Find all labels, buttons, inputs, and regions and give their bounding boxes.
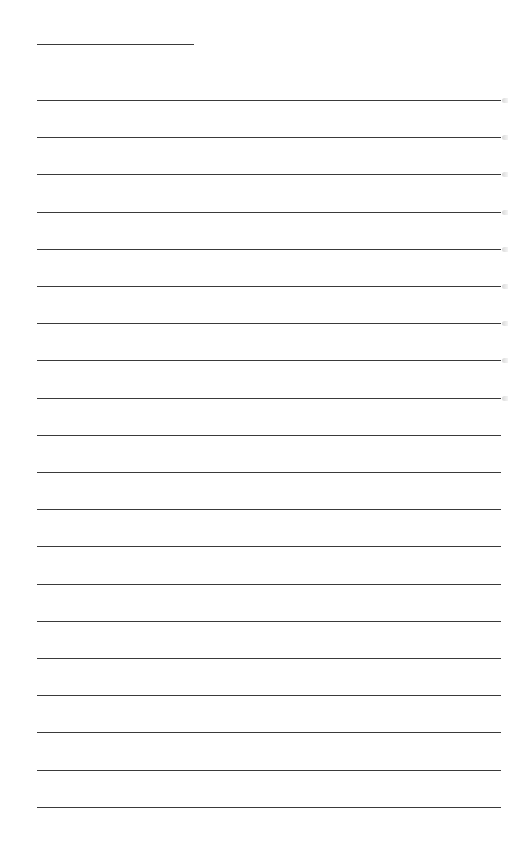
write-line xyxy=(37,286,501,287)
write-line xyxy=(37,360,501,361)
write-line xyxy=(37,770,501,771)
write-line xyxy=(37,472,501,473)
write-line xyxy=(37,100,501,101)
write-line xyxy=(37,435,501,436)
write-line xyxy=(37,807,501,808)
write-line xyxy=(37,323,501,324)
page-edge-shadow xyxy=(502,284,508,289)
page-edge-shadow xyxy=(502,247,508,252)
page-edge-shadow xyxy=(502,135,508,140)
page-edge-shadow xyxy=(502,358,508,363)
write-line xyxy=(37,249,501,250)
page-edge-shadow xyxy=(502,172,508,177)
page-edge-shadow xyxy=(502,396,508,401)
write-line xyxy=(37,137,501,138)
write-line xyxy=(37,212,501,213)
write-line xyxy=(37,584,501,585)
write-line xyxy=(37,398,501,399)
write-line xyxy=(37,695,501,696)
write-line xyxy=(37,546,501,547)
write-line xyxy=(37,174,501,175)
write-line xyxy=(37,621,501,622)
write-line xyxy=(37,509,501,510)
page-edge-shadow xyxy=(502,321,508,326)
write-line xyxy=(37,658,501,659)
write-line xyxy=(37,732,501,733)
page-edge-shadow xyxy=(502,98,508,103)
page-edge-shadow xyxy=(502,210,508,215)
title-write-line xyxy=(37,44,194,45)
